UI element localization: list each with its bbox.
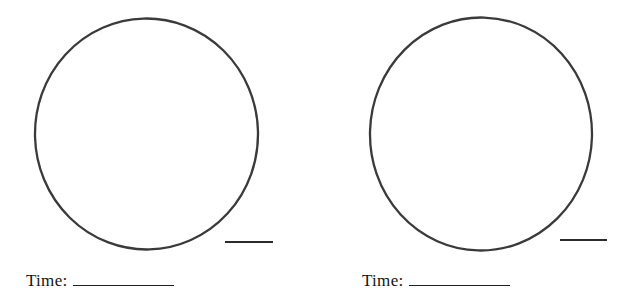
worksheet-page: Time: Time: <box>0 0 629 300</box>
clock-face-circle <box>32 16 261 253</box>
time-answer-row: Time: <box>26 270 174 291</box>
clock-block-left <box>0 0 314 262</box>
time-label: Time: <box>26 271 68 290</box>
time-label: Time: <box>362 271 404 290</box>
time-answer-blank <box>73 270 174 286</box>
time-answer-blank <box>409 270 510 286</box>
time-answer-row: Time: <box>362 270 510 291</box>
clock-face-circle <box>367 15 595 254</box>
clock-block-right <box>315 0 629 262</box>
